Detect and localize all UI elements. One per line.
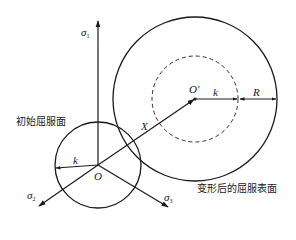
sigma2-subscript: 2 [32,196,35,202]
sigma2-axis [39,165,98,206]
sigma2-label: σ2 [27,190,35,202]
X-label: X [141,121,148,132]
deformed-yield-surface-label: 变形后的屈服表面 [197,184,277,194]
sigma3-label: σ3 [164,192,172,204]
origin-label: O [94,171,102,182]
initial-yield-surface-label: 初始屈服面 [16,117,66,127]
R-label: R [253,87,260,98]
k-initial-label: k [73,155,78,166]
sigma3-subscript: 3 [169,198,172,204]
origin-prime-label: O' [189,84,199,95]
k-dashed-label: k [213,87,218,98]
sigma1-label: σ1 [81,27,89,39]
translation-vector-x [98,100,194,166]
sigma1-subscript: 1 [86,33,89,39]
